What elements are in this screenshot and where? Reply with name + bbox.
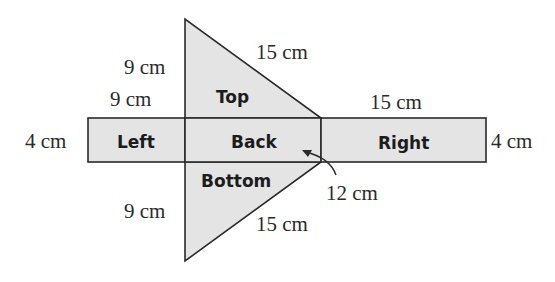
label-right: Right	[378, 133, 429, 153]
label-back: Back	[231, 132, 278, 152]
prism-net-diagram: Top Left Back Right Bottom 9 cm 15 cm 9 …	[0, 0, 555, 282]
dim-top-hypotenuse: 15 cm	[256, 40, 308, 64]
label-bottom: Bottom	[201, 171, 271, 191]
dim-right-height: 4 cm	[491, 129, 532, 153]
label-top: Top	[216, 87, 249, 107]
dim-back-length: 12 cm	[326, 181, 378, 205]
top-face	[185, 19, 321, 118]
dim-bottom-leg: 9 cm	[124, 199, 165, 223]
dim-bottom-hypotenuse: 15 cm	[256, 212, 308, 236]
dim-left-height: 4 cm	[25, 129, 66, 153]
dim-right-length: 15 cm	[370, 90, 422, 114]
dim-top-leg-outer: 9 cm	[124, 55, 165, 79]
dim-top-leg-inner: 9 cm	[110, 87, 151, 111]
label-left: Left	[117, 132, 155, 152]
